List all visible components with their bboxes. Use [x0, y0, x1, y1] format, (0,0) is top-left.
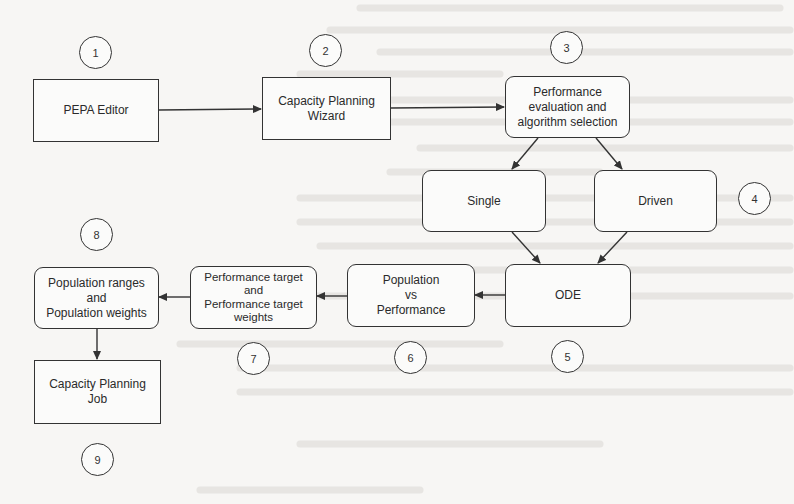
node-performance-target: Performance target and Performance targe… [190, 266, 317, 329]
node-label: ODE [555, 288, 581, 303]
node-single: Single [422, 170, 546, 232]
node-label: Capacity Planning Job [49, 377, 146, 407]
step-badge-1: 1 [79, 36, 112, 69]
step-badge-9: 9 [81, 443, 114, 476]
node-capacity-planning-wizard: Capacity Planning Wizard [262, 77, 391, 140]
step-badge-6: 6 [394, 341, 427, 374]
edge-n1-n2 [159, 109, 261, 110]
node-capacity-planning-job: Capacity Planning Job [34, 360, 161, 424]
node-population-ranges: Population ranges and Population weights [34, 267, 159, 329]
edge-n2-n3 [391, 107, 504, 108]
node-pepa-editor: PEPA Editor [33, 79, 159, 142]
edge-n3-n4b [596, 138, 622, 169]
node-ode: ODE [505, 264, 631, 327]
step-badge-8: 8 [80, 218, 113, 251]
node-population-vs-performance: Population vs Performance [347, 264, 475, 327]
edge-n4b-n5 [598, 232, 627, 263]
step-badge-3: 3 [550, 31, 583, 64]
node-label: Driven [638, 194, 673, 209]
step-badge-7: 7 [237, 342, 270, 375]
edge-n4a-n5 [512, 232, 540, 263]
step-badge-2: 2 [309, 34, 342, 67]
node-label: Performance evaluation and algorithm sel… [517, 85, 617, 130]
diagram-connectors [0, 0, 794, 504]
node-label: Performance target and Performance targe… [204, 271, 302, 325]
step-badge-5: 5 [551, 340, 584, 373]
node-label: Population vs Performance [377, 273, 446, 318]
edge-n3-n4a [512, 138, 538, 169]
node-label: Single [467, 194, 500, 209]
node-label: PEPA Editor [63, 103, 128, 118]
node-label: Capacity Planning Wizard [278, 94, 375, 124]
node-driven: Driven [594, 170, 717, 232]
node-performance-evaluation: Performance evaluation and algorithm sel… [505, 76, 630, 138]
node-label: Population ranges and Population weights [46, 276, 147, 321]
step-badge-4: 4 [738, 182, 771, 215]
